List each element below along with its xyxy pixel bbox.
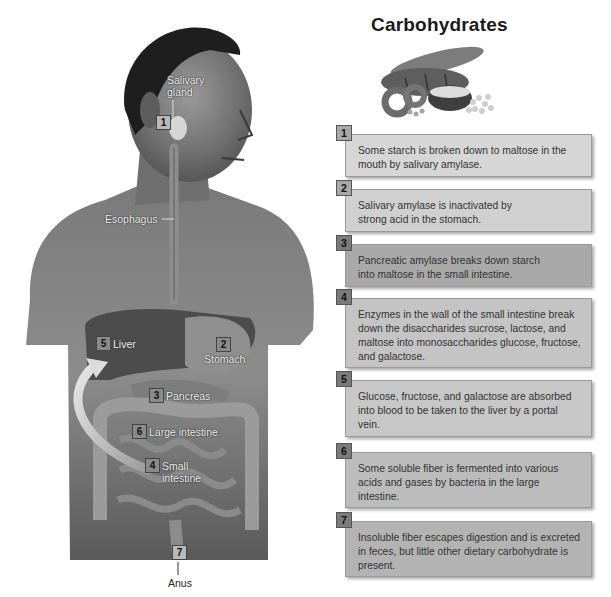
bread-pasta-rice-illustration: [375, 40, 500, 118]
step-5-badge: 5: [336, 371, 352, 387]
step-4-badge: 4: [336, 289, 352, 305]
step-4-text: Enzymes in the wall of the small intesti…: [358, 309, 581, 362]
marker-5: 5: [96, 336, 111, 351]
step-3-text: Pancreatic amylase breaks down starch in…: [358, 254, 553, 282]
marker-7: 7: [172, 545, 187, 560]
label-anus: Anus: [168, 577, 192, 589]
marker-3: 3: [149, 388, 164, 403]
label-small-intestine-line1: Small: [162, 460, 188, 472]
marker-6: 6: [132, 424, 147, 439]
step-1-text: Some starch is broken down to maltose in…: [358, 145, 566, 170]
label-pancreas: Pancreas: [166, 390, 210, 402]
page-title: Carbohydrates: [371, 14, 508, 36]
marker-4: 4: [145, 458, 160, 473]
human-body-illustration: [0, 0, 330, 597]
step-2-badge: 2: [336, 180, 352, 196]
label-salivary-gland-line1: Salivary: [167, 74, 204, 86]
label-esophagus: Esophagus: [105, 213, 158, 225]
label-stomach: Stomach: [204, 353, 245, 365]
label-liver: Liver: [113, 338, 136, 350]
step-6-text: Some soluble fiber is fermented into var…: [358, 463, 558, 502]
step-6-panel: 6 Some soluble fiber is fermented into v…: [345, 452, 592, 508]
step-2-panel: 2 Salivary amylase is inactivated by str…: [345, 189, 592, 232]
step-6-badge: 6: [336, 443, 352, 459]
marker-1: 1: [156, 115, 171, 130]
step-7-panel: 7 Insoluble fiber escapes digestion and …: [345, 521, 592, 577]
step-2-text: Salivary amylase is inactivated by stron…: [358, 199, 528, 227]
step-5-panel: 5 Glucose, fructose, and galactose are a…: [345, 380, 592, 437]
step-3-badge: 3: [336, 235, 352, 251]
step-4-panel: 4 Enzymes in the wall of the small intes…: [345, 298, 592, 368]
label-large-intestine: Large intestine: [149, 426, 218, 438]
step-3-panel: 3 Pancreatic amylase breaks down starch …: [345, 244, 592, 287]
step-1-panel: 1 Some starch is broken down to maltose …: [345, 134, 592, 177]
step-1-badge: 1: [336, 125, 352, 141]
label-small-intestine-line2: intestine: [162, 472, 201, 484]
step-7-badge: 7: [336, 512, 352, 528]
marker-2: 2: [216, 337, 231, 352]
label-salivary-gland-line2: gland: [167, 86, 193, 98]
step-5-text: Glucose, fructose, and galactose are abs…: [358, 391, 572, 430]
step-7-text: Insoluble fiber escapes digestion and is…: [358, 532, 580, 571]
anatomy-figure: Salivary gland 1 Esophagus 5 Liver 2 Sto…: [0, 0, 330, 597]
